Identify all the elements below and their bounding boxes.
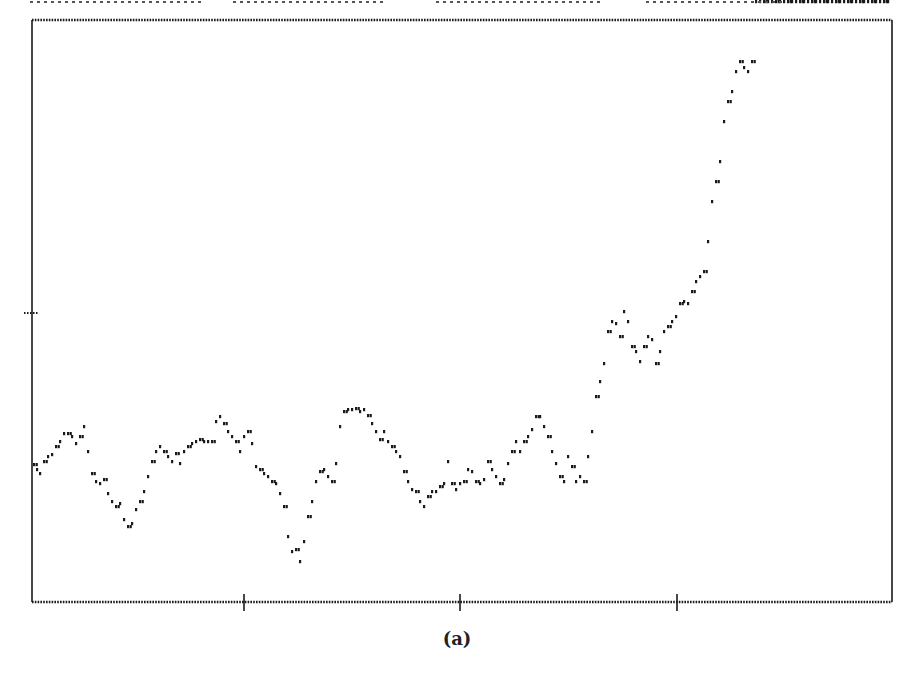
- data-points: [33, 0, 889, 563]
- time-series-plot: [0, 0, 914, 675]
- figure-caption: (a): [0, 628, 914, 649]
- axis-ticks: [24, 313, 677, 611]
- cropped-header-strip: [0, 0, 914, 8]
- plot-frame: [32, 20, 892, 602]
